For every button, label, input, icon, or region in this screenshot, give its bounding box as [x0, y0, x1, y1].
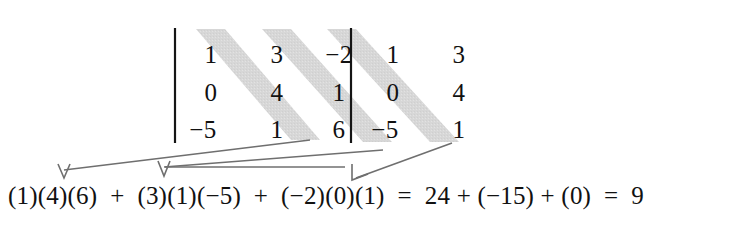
connector-arrows [58, 140, 452, 180]
matrix-repeat-cell-r3c1: −5 [362, 117, 408, 142]
equation-value-3: (0) [561, 182, 591, 209]
matrix-cell-r1c3: −2 [316, 42, 362, 67]
matrix-repeat-cell-r1c2: 3 [444, 42, 474, 67]
matrix-cell-r3c1: −5 [180, 117, 226, 142]
equation-equals-2: = [604, 182, 618, 209]
equation-result: 9 [631, 182, 644, 209]
equation-term-1: (1)(4)(6) [8, 182, 97, 209]
matrix-repeat-cell-r2c2: 4 [444, 80, 474, 105]
arrow-to-term-1 [64, 140, 310, 170]
matrix-repeat-cell-r3c2: 1 [444, 117, 474, 142]
matrix-cell-r2c1: 0 [196, 80, 226, 105]
matrix-cell-r3c3: 6 [316, 117, 362, 142]
sarrus-rule-figure: 1 3 −2 1 3 0 4 1 0 4 −5 1 6 −5 1 (1)(4)(… [0, 0, 745, 227]
matrix-cell-r2c2: 4 [262, 80, 292, 105]
arrow-head-3 [352, 164, 368, 180]
arrow-head-1 [58, 164, 70, 178]
equation-term-3: (−2)(0)(1) [281, 182, 385, 209]
arrow-to-term-3 [356, 143, 452, 178]
matrix-cell-r3c2: 1 [262, 117, 292, 142]
matrix-repeat-cell-r2c1: 0 [378, 80, 408, 105]
equation-plus-4: + [541, 182, 555, 209]
equation-value-2: (−15) [477, 182, 534, 209]
matrix-cell-r1c1: 1 [196, 42, 226, 67]
matrix-cell-r1c2: 3 [262, 42, 292, 67]
equation-plus-2: + [254, 182, 268, 209]
determinant-equation: (1)(4)(6) + (3)(1)(−5) + (−2)(0)(1) = 24… [8, 183, 738, 208]
arrow-to-term-2 [164, 150, 383, 167]
equation-plus-3: + [457, 182, 471, 209]
equation-equals-1: = [398, 182, 412, 209]
equation-value-1: 24 [425, 182, 450, 209]
matrix-cell-r2c3: 1 [316, 80, 362, 105]
matrix-repeat-cell-r1c1: 1 [378, 42, 408, 67]
arrow-head-2 [158, 161, 170, 176]
equation-plus-1: + [110, 182, 124, 209]
equation-term-2: (3)(1)(−5) [137, 182, 241, 209]
